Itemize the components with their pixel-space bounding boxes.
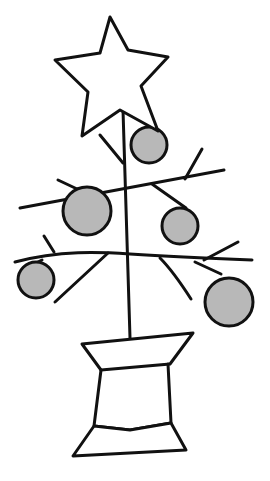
branch [44,236,54,252]
ornament [131,127,167,163]
pot-segment [82,333,193,370]
ornaments [18,127,253,326]
ornament [63,187,111,235]
flower-pot [73,333,193,456]
branch [160,258,191,299]
ornament [162,208,198,244]
ornament [205,278,253,326]
drawing-canvas [0,0,270,481]
branch [152,184,186,208]
tree-trunk [123,110,130,338]
branch [20,170,224,208]
branch [195,262,221,274]
christmas-tree-drawing [0,0,270,481]
branch [100,135,123,163]
ornament [18,262,54,298]
branch [55,253,108,302]
star-icon [55,17,168,136]
pot-segment [94,364,171,430]
pot-segment [73,423,186,456]
